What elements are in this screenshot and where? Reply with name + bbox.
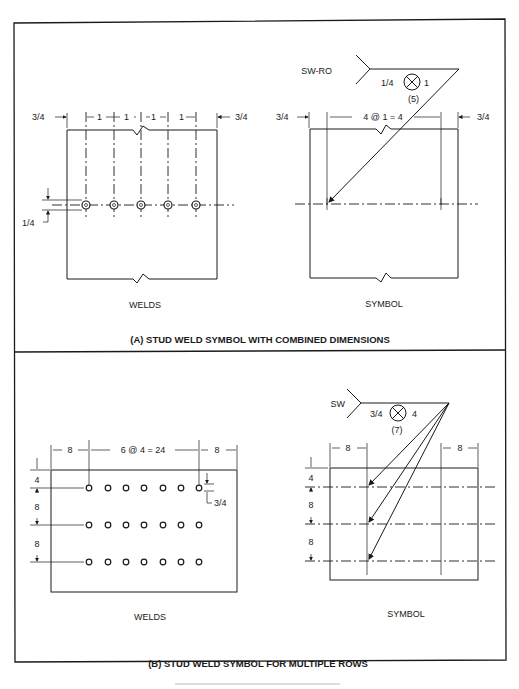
symbol-b-count: (7) (392, 425, 403, 435)
symbol-b-row-top: 4 (308, 473, 313, 483)
dim-b-spacing: 6 @ 4 = 24 (121, 445, 165, 455)
panel-a-welds-drawing (42, 112, 234, 283)
dim-spacing-2: 1 (124, 112, 129, 122)
symbol-count: (5) (408, 94, 419, 104)
symbol-pitch: 1 (424, 78, 429, 88)
dim-right-edge: 3/4 (235, 112, 248, 122)
caption-welds-b: WELDS (134, 612, 166, 622)
dim-spacing-4: 1 (179, 112, 184, 122)
symbol-dim-spacing: 4 @ 1 = 4 (363, 112, 402, 122)
dim-stud-diameter: 1/4 (22, 218, 35, 228)
panel-b-title: (B) STUD WELD SYMBOL FOR MULTIPLE ROWS (148, 658, 368, 669)
dim-b-right-edge: 8 (214, 445, 219, 455)
dim-b-left-edge: 8 (67, 445, 72, 455)
panel-b-symbol-drawing (305, 389, 495, 580)
dim-spacing-3: 1 (151, 112, 156, 122)
caption-symbol-a: SYMBOL (365, 299, 403, 309)
symbol-b-pitch: 4 (412, 409, 417, 419)
dim-b-stud-diameter: 3/4 (214, 498, 227, 508)
symbol-b-dim-left: 8 (345, 443, 350, 453)
dim-b-row-top: 4 (34, 475, 39, 485)
symbol-size: 1/4 (381, 78, 394, 88)
dim-b-row-gap-2: 8 (34, 539, 39, 549)
symbol-b-row-gap-2: 8 (308, 537, 313, 547)
dim-spacing-1: 1 (97, 112, 102, 122)
dim-left-edge: 3/4 (32, 112, 45, 122)
dim-b-row-gap-1: 8 (34, 502, 39, 512)
symbol-dim-left: 3/4 (276, 112, 289, 122)
symbol-b-tail-text: SW (331, 399, 346, 409)
symbol-tail-text: SW-RO (301, 66, 332, 76)
caption-welds-a: WELDS (129, 300, 161, 310)
symbol-b-size: 3/4 (370, 409, 383, 419)
caption-symbol-b: SYMBOL (387, 609, 425, 619)
panel-b-welds-drawing (30, 440, 237, 592)
symbol-b-dim-right: 8 (457, 443, 462, 453)
panel-a-title: (A) STUD WELD SYMBOL WITH COMBINED DIMEN… (130, 334, 389, 345)
panel-a-symbol-drawing (295, 55, 478, 282)
stud-weld-diagram: 3/4 1 1 1 1 3/4 1/4 WELDS SW-RO 1/4 1 (5… (0, 0, 519, 689)
stud-grid (86, 485, 202, 565)
symbol-dim-right: 3/4 (477, 112, 490, 122)
symbol-b-row-gap-1: 8 (308, 500, 313, 510)
